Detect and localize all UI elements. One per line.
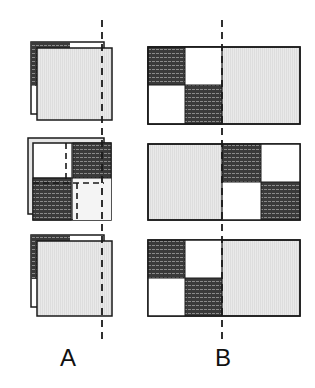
label-a: A [60, 346, 76, 370]
diagram-canvas [0, 0, 315, 388]
panel-a-middle [28, 138, 111, 220]
panel-a-bottom [31, 235, 112, 316]
panel-b-bottom [148, 240, 300, 316]
panel-a-top [31, 42, 112, 120]
label-b: B [215, 346, 231, 370]
panel-b-top [148, 47, 300, 124]
panel-b-middle [148, 144, 300, 220]
